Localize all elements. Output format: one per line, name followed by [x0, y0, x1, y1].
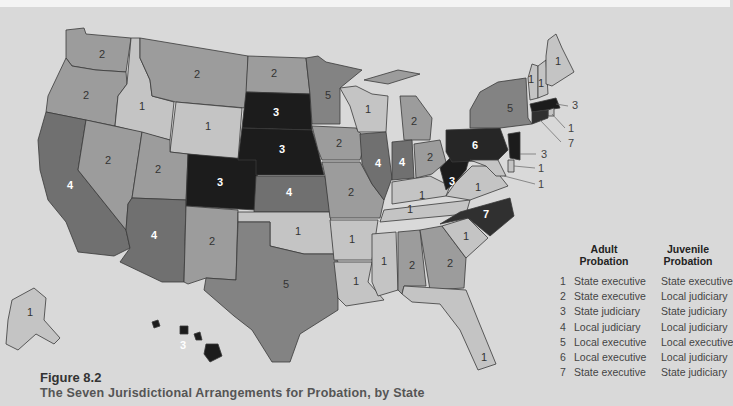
- legend-code: 2: [560, 289, 574, 304]
- state-label-ia: 2: [336, 137, 342, 149]
- legend-juvenile: Local judiciary: [661, 350, 728, 365]
- state-label-me: 1: [555, 55, 561, 67]
- state-label-mt: 2: [194, 68, 200, 80]
- state-label-mn: 5: [325, 89, 331, 101]
- legend-juvenile: State executive: [661, 274, 733, 289]
- legend-juvenile: State judiciary: [661, 365, 727, 380]
- state-label-tx: 5: [283, 278, 289, 290]
- legend-juvenile: Local executive: [661, 335, 733, 350]
- state-label-in: 4: [399, 156, 406, 168]
- state-label-wa: 2: [99, 48, 105, 60]
- legend-adult: State judiciary: [574, 304, 661, 319]
- callout-line-ri: [552, 114, 565, 128]
- state-label-nh: 1: [538, 77, 544, 89]
- legend-header-juvenile-line2: Probation: [648, 255, 728, 267]
- legend-adult: State executive: [574, 289, 661, 304]
- legend-row: 7State executiveState judiciary: [560, 365, 733, 380]
- legend-row: 1State executiveState executive: [560, 274, 733, 289]
- state-label-mo: 2: [348, 186, 354, 198]
- legend-adult: State executive: [574, 274, 661, 289]
- legend-code: 6: [560, 350, 574, 365]
- legend-header-adult: Adult Probation: [568, 243, 640, 267]
- legend-header-juvenile: Juvenile Probation: [648, 243, 728, 267]
- callout-label-nj: 3: [541, 148, 547, 160]
- state-label-ak: 1: [27, 306, 33, 318]
- figure-number: Figure 8.2: [40, 370, 425, 386]
- callout-line-de: [514, 166, 535, 168]
- legend-row: 4Local judiciaryLocal judiciary: [560, 320, 733, 335]
- figure-caption: Figure 8.2 The Seven Jurisdictional Arra…: [40, 370, 425, 401]
- state-label-nm: 2: [209, 235, 215, 247]
- state-label-la: 1: [353, 275, 359, 287]
- legend-juvenile: Local judiciary: [661, 289, 728, 304]
- state-label-sc: 1: [463, 230, 469, 242]
- figure-title: The Seven Jurisdictional Arrangements fo…: [40, 386, 425, 401]
- state-label-wi: 1: [365, 103, 371, 115]
- legend-header-adult-line1: Adult: [568, 243, 640, 255]
- state-label-nd: 2: [271, 67, 277, 79]
- state-label-az: 4: [151, 229, 158, 241]
- state-label-nv: 2: [105, 154, 111, 166]
- legend-adult: Local judiciary: [574, 320, 661, 335]
- state-label-tn: 1: [407, 203, 413, 215]
- legend-code: 1: [560, 274, 574, 289]
- state-ma: [530, 98, 560, 112]
- state-label-ut: 2: [155, 163, 161, 175]
- state-nj: [508, 132, 520, 160]
- state-label-ne: 3: [279, 143, 285, 155]
- state-label-sd: 3: [273, 106, 279, 118]
- legend-header-juvenile-line1: Juvenile: [648, 243, 728, 255]
- state-label-id: 1: [139, 100, 145, 112]
- legend-rows: 1State executiveState executive 2State e…: [560, 274, 733, 380]
- state-ak: [6, 288, 60, 350]
- state-label-or: 2: [83, 89, 89, 101]
- state-label-co: 3: [217, 176, 223, 188]
- legend-row: 3State judiciaryState judiciary: [560, 304, 733, 319]
- state-label-wy: 1: [205, 120, 211, 132]
- callout-line-ct: [540, 120, 561, 142]
- legend-adult: Local executive: [574, 335, 661, 350]
- state-nd: [246, 56, 310, 94]
- legend-header-adult-line2: Probation: [568, 255, 640, 267]
- state-label-ms: 1: [381, 255, 387, 267]
- state-label-ny: 5: [507, 102, 513, 114]
- callout-label-ri: 1: [568, 122, 574, 134]
- state-label-oh: 2: [427, 151, 433, 163]
- callout-label-ma: 3: [572, 99, 578, 111]
- legend-code: 4: [560, 320, 574, 335]
- state-label-ks: 4: [286, 186, 293, 198]
- legend-row: 6Local executiveLocal judiciary: [560, 350, 733, 365]
- legend-adult: Local executive: [574, 350, 661, 365]
- legend-row: 2State executiveLocal judiciary: [560, 289, 733, 304]
- state-label-nc: 7: [483, 208, 489, 220]
- legend-code: 5: [560, 335, 574, 350]
- callout-label-md: 1: [538, 178, 544, 190]
- state-label-fl: 1: [481, 351, 487, 363]
- state-label-ga: 2: [447, 257, 453, 269]
- state-label-wv: 3: [449, 175, 455, 187]
- state-label-il: 4: [375, 157, 382, 169]
- state-ct: [532, 110, 548, 124]
- legend-juvenile: Local judiciary: [661, 320, 728, 335]
- state-label-hi: 3: [180, 339, 186, 351]
- callout-label-ct: 7: [568, 137, 574, 149]
- legend-adult: State executive: [574, 365, 661, 380]
- legend-juvenile: State judiciary: [661, 304, 727, 319]
- legend-code: 3: [560, 304, 574, 319]
- legend-row: 5Local executiveLocal executive: [560, 335, 733, 350]
- state-ny: [470, 78, 532, 128]
- state-label-pa: 6: [472, 139, 478, 151]
- legend-code: 7: [560, 365, 574, 380]
- state-label-ar: 1: [349, 233, 355, 245]
- state-hi: [152, 320, 222, 362]
- state-de: [508, 160, 514, 172]
- state-label-al: 2: [409, 259, 415, 271]
- state-label-ca: 4: [67, 179, 74, 191]
- state-label-mi: 2: [411, 115, 417, 127]
- state-label-ok: 1: [295, 225, 301, 237]
- callout-line-md: [504, 176, 535, 184]
- state-label-vt: 1: [528, 73, 534, 85]
- state-label-va: 1: [475, 181, 481, 193]
- state-label-ky: 1: [419, 189, 425, 201]
- callout-label-de: 1: [538, 162, 544, 174]
